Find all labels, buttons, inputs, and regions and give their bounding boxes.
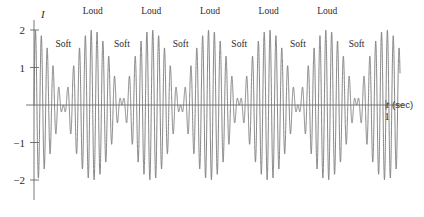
annotation-group: LoudLoudLoudLoudLoudSoftSoftSoftSoftSoft… <box>55 6 364 49</box>
x-axis-label: t <box>386 98 390 110</box>
annotation-soft: Soft <box>290 39 306 49</box>
beats-chart-svg: 21−1−2 1 LoudLoudLoudLoudLoudSoftSoftSof… <box>0 0 424 217</box>
annotation-loud: Loud <box>259 6 279 16</box>
annotation-soft: Soft <box>55 39 71 49</box>
beats-waveform-figure: 21−1−2 1 LoudLoudLoudLoudLoudSoftSoftSof… <box>0 0 424 217</box>
y-tick-label: 2 <box>20 24 26 36</box>
annotation-soft: Soft <box>231 39 247 49</box>
annotation-loud: Loud <box>317 6 337 16</box>
annotation-loud: Loud <box>83 6 103 16</box>
annotation-soft: Soft <box>349 39 365 49</box>
y-tick-label: −1 <box>13 137 25 149</box>
x-axis-unit-label: (sec) <box>392 99 413 110</box>
y-tick-label: 1 <box>20 62 26 74</box>
annotation-loud: Loud <box>141 6 161 16</box>
annotation-soft: Soft <box>173 39 189 49</box>
annotation-soft: Soft <box>114 39 130 49</box>
y-axis-label: I <box>40 8 46 20</box>
y-tick-label: −2 <box>13 174 25 186</box>
annotation-loud: Loud <box>200 6 220 16</box>
